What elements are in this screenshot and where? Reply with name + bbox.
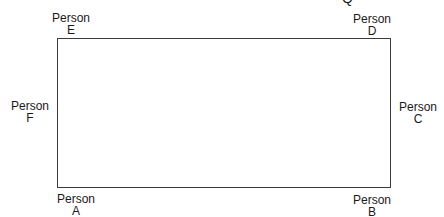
person-f: Person F: [0, 100, 60, 124]
table-rectangle: [57, 38, 391, 188]
person-b: Person B: [342, 194, 402, 217]
partial-top-glyph: Q: [342, 0, 353, 5]
person-a: Person A: [46, 193, 106, 217]
person-b-letter: B: [342, 206, 402, 217]
person-c-letter: C: [388, 113, 444, 125]
person-e: Person E: [41, 12, 101, 36]
person-d-letter: D: [342, 25, 402, 37]
person-c: Person C: [388, 101, 444, 125]
person-e-letter: E: [41, 24, 101, 36]
person-d: Person D: [342, 13, 402, 37]
person-a-letter: A: [46, 205, 106, 217]
person-f-letter: F: [0, 112, 60, 124]
